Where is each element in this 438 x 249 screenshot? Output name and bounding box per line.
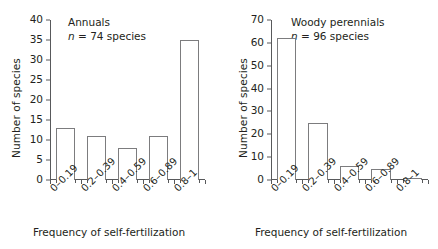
y-axis-line xyxy=(50,20,51,180)
y-tick-mark xyxy=(267,157,271,158)
x-tick-mark xyxy=(106,180,107,183)
y-tick-label: 5 xyxy=(36,153,43,166)
y-tick-label: 25 xyxy=(30,73,43,86)
y-tick-mark xyxy=(267,88,271,89)
y-tick-label: 15 xyxy=(30,113,43,126)
y-tick-mark xyxy=(267,134,271,135)
y-axis-title: Number of species xyxy=(237,48,249,168)
y-axis-line xyxy=(271,20,272,180)
y-tick-label: 0 xyxy=(36,173,43,186)
x-tick-mark xyxy=(428,180,429,184)
y-tick-label: 20 xyxy=(251,127,264,140)
y-tick-label: 50 xyxy=(251,58,264,71)
x-axis-title: Frequency of self-fertilization xyxy=(14,226,204,238)
y-tick-label: 40 xyxy=(251,81,264,94)
x-tick-mark xyxy=(199,180,200,183)
x-tick-mark xyxy=(422,180,423,183)
y-tick-label: 0 xyxy=(257,173,264,186)
y-tick-label: 70 xyxy=(251,13,264,26)
y-tick-mark xyxy=(267,65,271,66)
y-tick-label: 30 xyxy=(251,104,264,117)
y-tick-label: 20 xyxy=(30,93,43,106)
x-tick-mark xyxy=(168,180,169,183)
x-tick-mark xyxy=(137,180,138,183)
x-tick-label: 0.8–1 xyxy=(172,167,200,195)
y-tick-mark xyxy=(46,120,50,121)
y-tick-mark xyxy=(267,111,271,112)
plot-area: 010203040506070 0–0.190.2–0.390.4–0.590.… xyxy=(271,20,428,180)
x-tick-mark xyxy=(328,180,329,183)
y-tick-mark xyxy=(46,80,50,81)
y-tick-mark xyxy=(46,60,50,61)
x-tick-label: 0.8–1 xyxy=(394,167,422,195)
y-tick-mark xyxy=(46,140,50,141)
x-tick-mark xyxy=(75,180,76,183)
y-tick-label: 30 xyxy=(30,53,43,66)
y-tick-label: 10 xyxy=(30,133,43,146)
plot-area: 0510152025303540 0–0.190.2–0.390.4–0.590… xyxy=(50,20,205,180)
y-tick-label: 60 xyxy=(251,35,264,48)
x-tick-mark xyxy=(359,180,360,183)
histogram-bar xyxy=(277,38,296,180)
x-tick-mark xyxy=(391,180,392,183)
y-tick-label: 10 xyxy=(251,150,264,163)
figure-two-panel-histograms: Number of species Annuals n = 74 species… xyxy=(0,0,438,249)
y-tick-mark xyxy=(46,100,50,101)
y-tick-mark xyxy=(267,42,271,43)
y-tick-mark xyxy=(46,160,50,161)
panel-woody-perennials: Number of species Woody perennials n = 9… xyxy=(219,0,438,249)
y-tick-mark xyxy=(46,20,50,21)
x-axis-title: Frequency of self-fertilization xyxy=(235,226,427,238)
y-axis-title: Number of species xyxy=(10,48,22,168)
histogram-bar xyxy=(180,40,199,180)
y-tick-mark xyxy=(267,20,271,21)
y-tick-label: 35 xyxy=(30,33,43,46)
y-tick-label: 40 xyxy=(30,13,43,26)
x-tick-mark xyxy=(296,180,297,183)
panel-annuals: Number of species Annuals n = 74 species… xyxy=(0,0,219,249)
x-tick-mark xyxy=(205,180,206,184)
y-tick-mark xyxy=(46,40,50,41)
